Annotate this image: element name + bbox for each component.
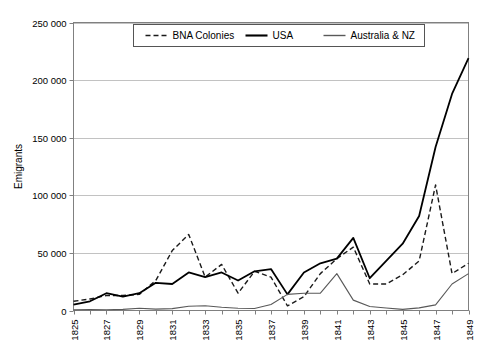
x-axis-label-1849: 1849	[464, 320, 475, 341]
legend-label-0: BNA Colonies	[173, 30, 235, 41]
y-axis-label-0: 0	[61, 306, 66, 317]
y-axis-label-150000: 150 000	[32, 133, 66, 144]
y-axis-label-100000: 100 000	[32, 190, 66, 201]
x-axis-label-1839: 1839	[299, 320, 310, 341]
gridlines: 250 000200 000150 000100 00050 0000	[32, 18, 468, 317]
chart-canvas: 250 000200 000150 000100 00050 000018251…	[0, 0, 487, 344]
x-axis-label-1825: 1825	[69, 320, 80, 341]
y-axis-label-50000: 50 000	[37, 248, 66, 259]
x-axis-label-1837: 1837	[266, 320, 277, 341]
y-axis-title: Emigrants	[13, 144, 24, 189]
y-axis-label-250000: 250 000	[32, 18, 66, 29]
series-2-line	[74, 274, 469, 310]
series-0-line	[74, 185, 469, 306]
legend: BNA ColoniesUSAAustralia & NZ	[134, 25, 425, 47]
x-axis-label-1829: 1829	[134, 320, 145, 341]
legend-label-2: Australia & NZ	[351, 30, 415, 41]
x-axis-label-1835: 1835	[233, 320, 244, 341]
x-axis-label-1847: 1847	[431, 320, 442, 341]
x-axis-label-1827: 1827	[101, 320, 112, 341]
plot-frame	[74, 23, 469, 311]
x-axis: 1825182718291831183318351837183918411843…	[69, 311, 475, 341]
series-group	[74, 58, 469, 310]
legend-label-1: USA	[273, 30, 294, 41]
emigration-line-chart: 250 000200 000150 000100 00050 000018251…	[0, 0, 487, 344]
x-axis-label-1831: 1831	[167, 320, 178, 341]
x-axis-label-1833: 1833	[200, 320, 211, 341]
x-axis-label-1845: 1845	[398, 320, 409, 341]
x-axis-label-1841: 1841	[332, 320, 343, 341]
y-axis-label-200000: 200 000	[32, 75, 66, 86]
series-1-line	[74, 58, 469, 305]
x-axis-label-1843: 1843	[365, 320, 376, 341]
